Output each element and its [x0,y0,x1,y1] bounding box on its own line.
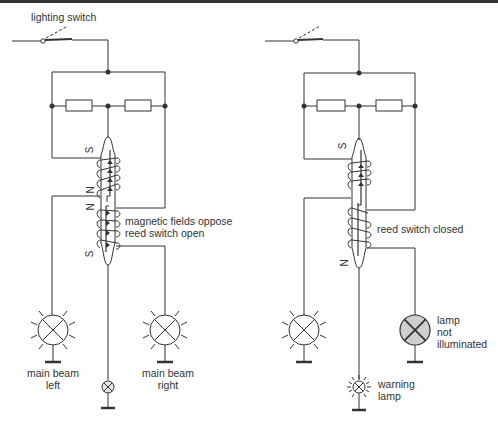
lamp-not-illuminated-line3: illuminated [437,338,487,350]
pole-label: S [337,143,349,150]
pole-label: N [85,203,97,210]
lamp-main-beam-left-icon [31,311,75,349]
annotation-reed-closed: reed switch closed [377,223,463,235]
pole-label: N [339,259,351,266]
warning-lamp-label: warning lamp [378,378,415,402]
warning-lamp-off-icon [102,381,114,393]
resistor-icon [66,100,92,111]
right-circuit [265,26,430,410]
lamp-label-right: main beam right [137,367,199,391]
lighting-switch-label: lighting switch [31,11,96,23]
pole-label: S [84,147,96,154]
lamp-label-left-line1: main beam [22,367,84,379]
warning-lamp-line1: warning [378,378,415,390]
resistor-icon [125,100,151,111]
resistor-icon [376,100,402,111]
lamp-not-illuminated-line1: lamp [437,314,487,326]
annotation-opposing-fields: magnetic fields oppose [125,215,232,227]
annotation-reed-open: reed switch open [125,227,204,239]
pole-label: N [85,186,97,193]
lamp-label-left: main beam left [22,367,84,391]
pole-label: S [84,251,96,258]
lighting-switch-icon [265,26,359,73]
lamp-label-right-line1: main beam [137,367,199,379]
circuit-diagram [0,0,498,423]
warning-lamp-line2: lamp [378,390,415,402]
reed-switch-icon [352,139,366,268]
lamp-main-beam-right-icon [143,311,187,349]
resistor-icon [317,100,345,111]
lamp-not-illuminated-line2: not [437,326,487,338]
lamp-label-right-line2: right [137,379,199,391]
lamp-label-left-line2: left [22,379,84,391]
lamp-not-illuminated-label: lamp not illuminated [437,314,487,350]
lamp-failed-icon [400,315,430,345]
lighting-switch-icon [12,26,108,72]
lamp-main-beam-left-icon [282,311,326,349]
